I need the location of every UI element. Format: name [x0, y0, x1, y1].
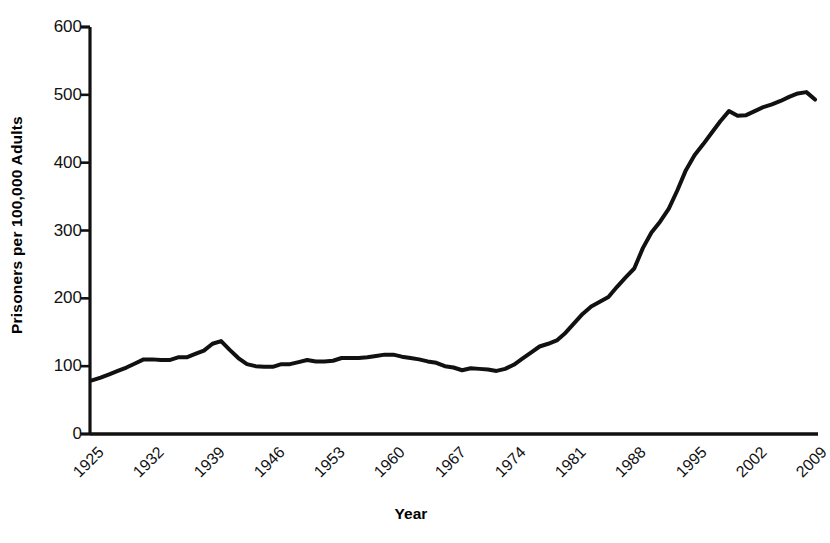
x-tick-label: 1946 [251, 444, 287, 480]
x-tick-label: 1932 [131, 444, 167, 480]
x-tick-label: 1925 [70, 444, 106, 480]
x-tick-label: 1988 [613, 444, 649, 480]
x-tick-label: 1974 [492, 444, 528, 480]
x-tick-label: 1995 [673, 444, 709, 480]
x-tick-label: 1960 [372, 444, 408, 480]
x-tick-label: 1967 [432, 444, 468, 480]
x-tick-label: 2002 [733, 444, 769, 480]
x-tick-label: 1939 [191, 444, 227, 480]
x-tick-label: 1981 [552, 444, 588, 480]
x-axis-title: Year [0, 505, 822, 523]
x-tick-label: 1953 [311, 444, 347, 480]
x-tick-label: 2009 [793, 444, 829, 480]
